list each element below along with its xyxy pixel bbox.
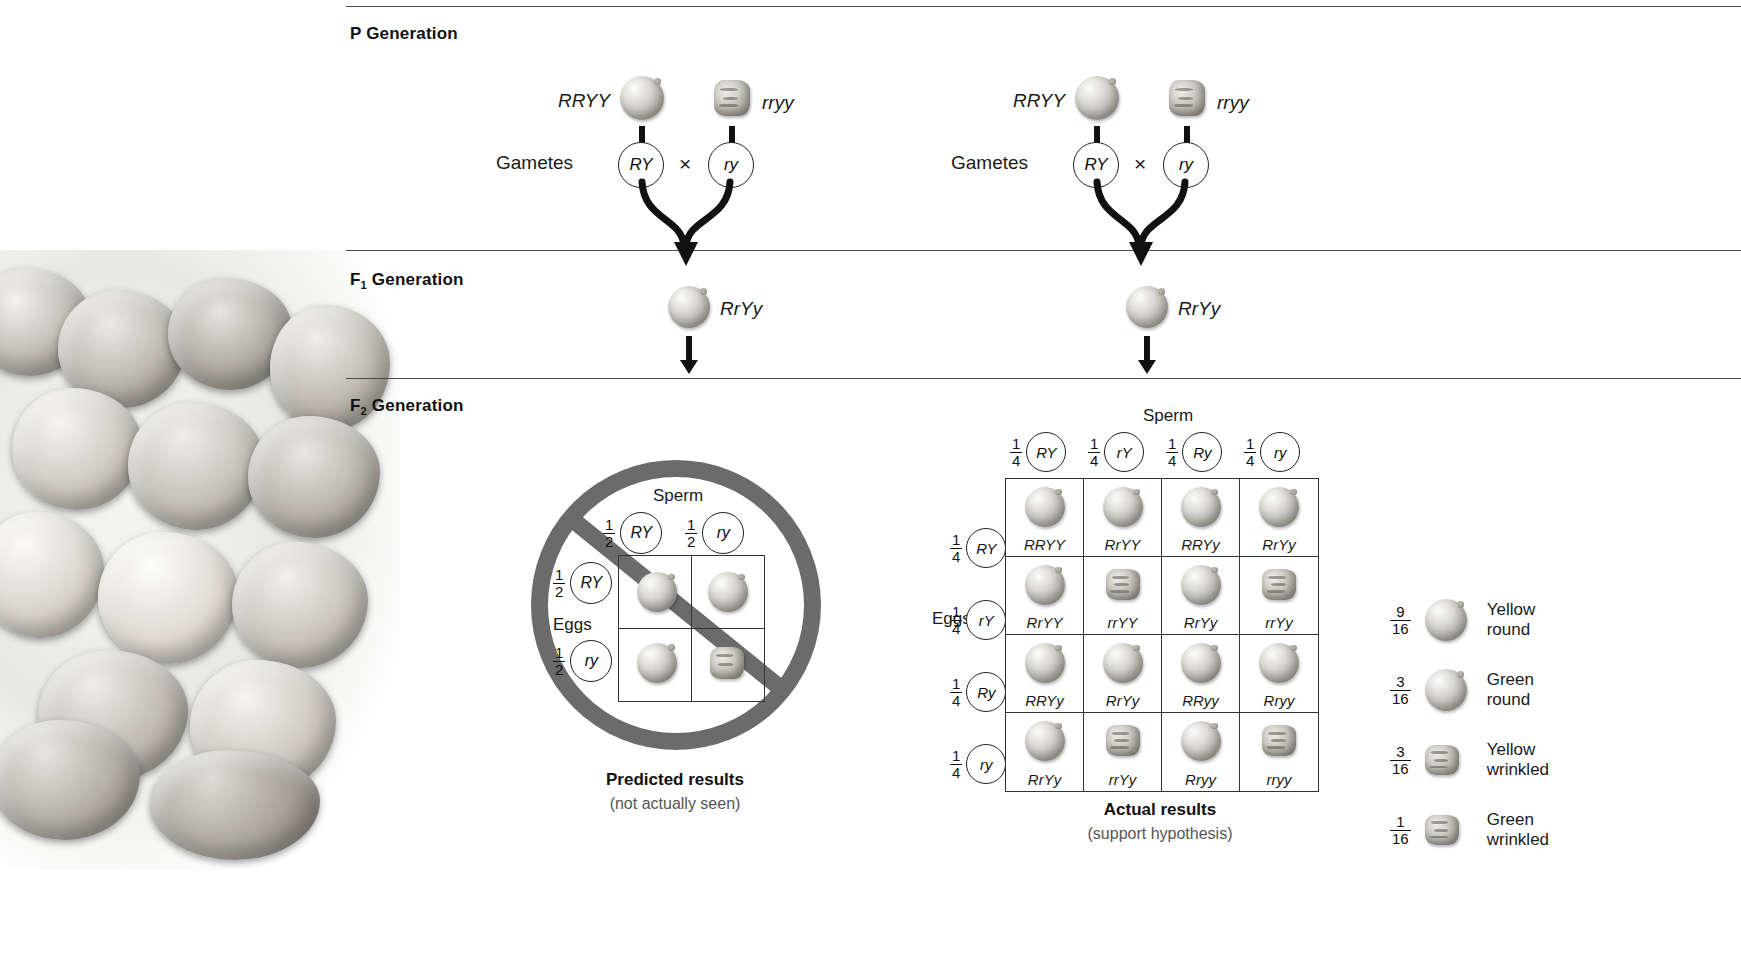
predicted-egg-header-0: 1 2 RY [553, 562, 612, 604]
fraction-denominator: 2 [553, 661, 565, 677]
punnett-cell: rrYy [1240, 557, 1318, 635]
actual-punnett-square: RRYYRrYYRRYyRrYyRrYYrrYYRrYyrrYyRRYyRrYy… [1005, 478, 1319, 792]
cell-seed-round [1025, 487, 1065, 527]
gametes-label: Gametes [496, 152, 573, 174]
legend-item: 116Greenwrinkled [1390, 795, 1730, 865]
fraction-denominator: 4 [1010, 452, 1022, 468]
f1-arrow-head [1138, 360, 1156, 374]
pea-seeds-photograph [0, 250, 400, 870]
divider-top [346, 6, 1741, 7]
predicted-eggs-label: Eggs [553, 615, 592, 635]
gamete-label: ry [980, 756, 993, 773]
punnett-cell: rrYY [1084, 557, 1162, 635]
fraction: 1 4 [1088, 436, 1100, 468]
legend-seed-swatch [1425, 745, 1473, 776]
p-gamete2-label: ry [724, 155, 738, 175]
divider-f1-f2 [346, 378, 1741, 379]
punnett-cell-genotype: RRYY [1006, 536, 1083, 553]
actual-egg-header-3: 1 4 ry [950, 744, 1006, 784]
f1-seed-round [668, 286, 710, 328]
punnett-cell-genotype: rryy [1240, 771, 1318, 788]
f1-genotype: RrYy [720, 298, 762, 320]
punnett-cell [619, 556, 692, 629]
legend-item: 916Yellowround [1390, 585, 1730, 655]
cell-seed-wrinkled [1262, 725, 1296, 756]
fraction: 1 4 [950, 676, 962, 708]
actual-caption-title: Actual results [970, 800, 1350, 820]
fraction-numerator: 3 [1394, 674, 1406, 689]
legend-seed-swatch [1425, 815, 1473, 846]
legend-fraction: 316 [1390, 744, 1411, 776]
punnett-cell: Rryy [1240, 635, 1318, 713]
legend-line2: round [1487, 620, 1536, 640]
fraction-denominator: 2 [685, 533, 697, 549]
fraction-numerator: 1 [950, 676, 962, 691]
f1-offspring-right: RrYy [1126, 286, 1306, 366]
punnett-cell: RrYY [1006, 557, 1084, 635]
punnett-cell: RRYY [1006, 479, 1084, 557]
cell-seed-round [637, 572, 677, 612]
f1-label-letter: F [350, 270, 361, 289]
p-gamete2-label: ry [1179, 155, 1193, 175]
predicted-sperm-gamete-ry-recessive: ry [702, 512, 744, 554]
actual-sperm-header-3: 1 4 ry [1244, 432, 1300, 472]
predicted-egg-gamete-ry: RY [570, 562, 612, 604]
punnett-cell: RRYy [1162, 479, 1240, 557]
fraction-numerator: 9 [1394, 604, 1406, 619]
divider-p-f1 [346, 250, 1741, 251]
gamete-label: ry [717, 524, 730, 542]
fraction: 1 4 [950, 532, 962, 564]
actual-caption-sub: (support hypothesis) [970, 825, 1350, 843]
p-cross-right: RRYY rryy Gametes RY × ry [995, 44, 1285, 234]
fraction-denominator: 16 [1390, 830, 1411, 846]
cell-seed-round [1259, 487, 1299, 527]
cell-seed-round [1181, 643, 1221, 683]
punnett-cell: RRyy [1162, 635, 1240, 713]
actual-sperm-header-2: 1 4 Ry [1166, 432, 1222, 472]
predicted-punnett-square [618, 555, 765, 702]
cell-seed-wrinkled [1106, 569, 1140, 600]
fraction-denominator: 4 [950, 548, 962, 564]
fraction-denominator: 4 [1088, 452, 1100, 468]
fraction: 1 2 [553, 567, 565, 599]
punnett-cell-genotype: Rryy [1240, 692, 1318, 709]
fraction-numerator: 1 [553, 645, 565, 660]
fraction-numerator: 1 [1244, 436, 1256, 451]
legend-line1: Green [1487, 810, 1549, 830]
f1-offspring-left: RrYy [668, 286, 848, 366]
predicted-egg-gamete-ry-recessive: ry [570, 640, 612, 682]
punnett-cell-genotype: RrYy [1006, 771, 1083, 788]
cell-seed-round [1181, 565, 1221, 605]
actual-egg-header-2: 1 4 Ry [950, 672, 1006, 712]
fraction-denominator: 16 [1390, 760, 1411, 776]
legend-phenotype-label: Greenround [1487, 670, 1534, 709]
p-converging-arrow [600, 174, 770, 284]
p-parent2-seed-wrinkled [714, 80, 750, 116]
predicted-egg-header-1: 1 2 ry [553, 640, 612, 682]
punnett-cell-genotype: RrYY [1084, 536, 1161, 553]
actual-egg-gamete-ry4: ry [966, 744, 1006, 784]
cell-seed-round [1025, 643, 1065, 683]
fraction: 1 4 [1166, 436, 1178, 468]
p-parent2-seed-wrinkled [1169, 80, 1205, 116]
f1-label-suffix: Generation [367, 270, 464, 289]
f1-genotype: RrYy [1178, 298, 1220, 320]
gamete-label: Ry [1193, 444, 1211, 461]
fraction: 1 4 [950, 748, 962, 780]
actual-results-block: Sperm 1 4 RY 1 4 rY 1 4 Ry 1 4 [940, 404, 1340, 804]
fraction-numerator: 1 [553, 567, 565, 582]
cell-seed-round [1181, 487, 1221, 527]
f1-generation-title: F1 Generation [350, 270, 464, 291]
gamete-label: RY [581, 574, 603, 592]
legend-fraction: 916 [1390, 604, 1411, 636]
fraction-denominator: 2 [553, 583, 565, 599]
cell-seed-round [1025, 721, 1065, 761]
fraction-denominator: 2 [603, 533, 615, 549]
fraction-numerator: 1 [950, 604, 962, 619]
predicted-sperm-gamete-ry: RY [620, 512, 662, 554]
predicted-results-block: Sperm 1 2 RY 1 2 ry Eggs 1 2 RY 1 2 [525, 450, 845, 810]
punnett-cell-genotype: RRYy [1162, 536, 1239, 553]
p-parent2-genotype: rryy [762, 92, 794, 114]
fraction-denominator: 4 [1244, 452, 1256, 468]
legend-fraction: 116 [1390, 814, 1411, 846]
